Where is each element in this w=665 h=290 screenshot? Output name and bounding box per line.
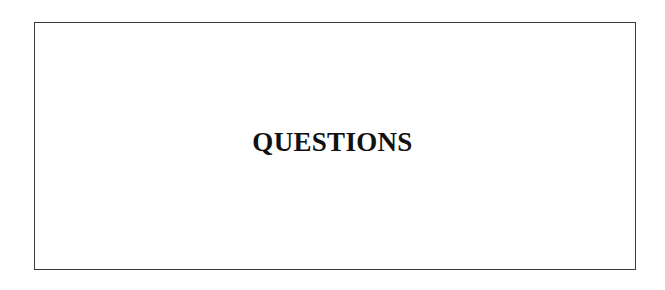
section-heading: QUESTIONS xyxy=(0,127,665,158)
